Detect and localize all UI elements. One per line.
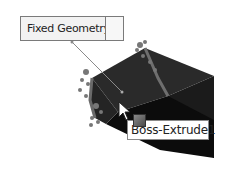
fixed-geometry-callout[interactable]: Fixed Geometry:	[20, 16, 124, 41]
callout-label: Fixed Geometry:	[21, 22, 113, 35]
arrow-pointer-icon	[118, 101, 132, 121]
graphics-viewport[interactable]: Fixed Geometry: Boss-Extrude1	[0, 0, 228, 169]
callout-value-field[interactable]	[105, 17, 123, 40]
extrude-feature-icon	[133, 114, 146, 127]
